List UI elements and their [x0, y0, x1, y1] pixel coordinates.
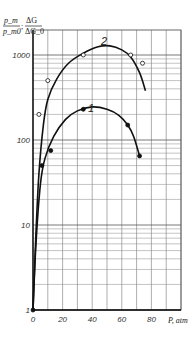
curve-label-2: 2	[100, 35, 107, 47]
series	[31, 46, 145, 312]
x-tick-label: 80	[147, 315, 156, 324]
series-2-curve	[33, 46, 145, 310]
y-label-dG0: ΔG_0	[25, 27, 44, 36]
y-tick-label: 100	[17, 136, 31, 145]
series-1-point	[138, 154, 142, 158]
y-tick-label: 1000	[12, 51, 30, 60]
chart: 0204060801101001000 p_m p_m0 ; ΔG ΔG_0 P…	[0, 0, 196, 346]
grid	[33, 30, 181, 310]
x-axis-label: P, atm	[167, 316, 188, 325]
y-tick-label: 10	[21, 221, 30, 230]
series-1-point	[81, 107, 85, 111]
x-tick-label: 20	[57, 315, 67, 324]
series-2-point	[37, 112, 41, 116]
series-1-point	[49, 149, 53, 153]
curve-label-1: 1	[88, 102, 94, 114]
series-1-curve	[33, 107, 140, 310]
y-label-dG: ΔG	[26, 16, 37, 25]
series-2-point	[129, 53, 133, 57]
x-tick-label: 40	[88, 315, 97, 324]
series-2-point	[141, 61, 145, 65]
y-label-pm0: p_m0	[2, 27, 21, 36]
axis-labels: p_m p_m0 ; ΔG ΔG_0 P, atm 2 1	[2, 16, 188, 325]
x-tick-label: 60	[117, 315, 126, 324]
series-1-point	[40, 164, 44, 168]
series-1-point	[126, 123, 130, 127]
y-tick-label: 1	[26, 306, 30, 315]
y-label-separator: ;	[21, 22, 23, 31]
x-tick-label: 0	[31, 315, 36, 324]
series-2-point	[46, 79, 50, 83]
series-2-point	[81, 53, 85, 57]
y-label-pm: p_m	[3, 16, 18, 25]
